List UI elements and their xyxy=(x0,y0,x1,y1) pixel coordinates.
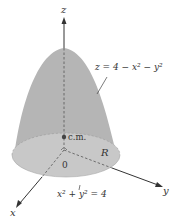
x-axis-label: x xyxy=(10,207,16,218)
region-label: R xyxy=(101,147,109,158)
surface-equation-label: z = 4 − x² − y² xyxy=(95,62,163,72)
surface-leader-line xyxy=(97,77,107,94)
paraboloid-svg xyxy=(0,0,182,221)
x-axis xyxy=(20,177,42,203)
origin-label: 0 xyxy=(62,160,68,170)
z-axis-arrowhead xyxy=(62,17,67,24)
center-of-mass-dot xyxy=(62,135,66,139)
paraboloid-diagram: z z = 4 − x² − y² c.m. R 0 y x² + y² = 4… xyxy=(0,0,182,221)
base-equation-label: x² + y² = 4 xyxy=(57,189,107,199)
y-axis xyxy=(112,168,158,185)
y-axis-arrowhead xyxy=(155,182,163,187)
center-of-mass-label: c.m. xyxy=(68,132,86,142)
z-axis-label: z xyxy=(61,4,66,15)
y-axis-label: y xyxy=(163,185,169,196)
